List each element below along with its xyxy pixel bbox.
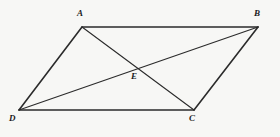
segment-side-BC xyxy=(194,27,258,110)
vertex-label-a: A xyxy=(77,9,83,18)
vertex-label-b: B xyxy=(254,9,260,18)
vertex-label-c: C xyxy=(189,114,195,123)
segment-side-DA xyxy=(19,27,82,110)
vertex-label-d: D xyxy=(9,114,16,123)
segment-diagonal-DB xyxy=(19,27,258,110)
parallelogram-diagram xyxy=(0,0,280,137)
geometry-figure: A B C D E xyxy=(0,0,280,137)
vertex-label-e: E xyxy=(131,72,137,81)
